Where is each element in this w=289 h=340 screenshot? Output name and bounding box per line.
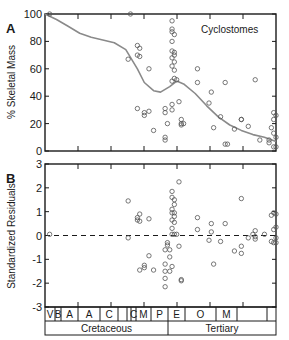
panel-b-points bbox=[47, 180, 278, 289]
data-point bbox=[195, 67, 199, 71]
data-point bbox=[170, 189, 174, 193]
stage-label: A bbox=[66, 309, 73, 320]
data-point bbox=[170, 226, 174, 230]
timescale-stages: VBAACCMPEOM bbox=[47, 307, 267, 321]
data-point bbox=[126, 57, 130, 61]
data-point bbox=[165, 121, 169, 125]
y-tick-label: -3 bbox=[32, 301, 42, 313]
data-point bbox=[195, 80, 199, 84]
data-point bbox=[209, 90, 213, 94]
data-point bbox=[177, 244, 181, 248]
data-point bbox=[239, 196, 243, 200]
data-point bbox=[218, 239, 222, 243]
data-point bbox=[267, 141, 271, 145]
data-point bbox=[172, 53, 176, 57]
stage-label: O bbox=[197, 309, 205, 320]
data-point bbox=[246, 124, 250, 128]
y-tick-label: 60 bbox=[30, 63, 42, 75]
data-point bbox=[239, 251, 243, 255]
data-point bbox=[135, 106, 139, 110]
stage-label: V bbox=[47, 309, 54, 320]
data-point bbox=[211, 126, 215, 130]
y-tick-label: 2 bbox=[36, 182, 42, 194]
y-tick-label: 0 bbox=[36, 145, 42, 157]
data-point bbox=[239, 244, 243, 248]
data-point bbox=[170, 64, 174, 68]
y-tick-label: 40 bbox=[30, 90, 42, 102]
data-point bbox=[170, 264, 174, 268]
data-point bbox=[126, 236, 130, 240]
panel-b-frame bbox=[45, 164, 276, 307]
data-point bbox=[163, 276, 167, 280]
timescale-periods: CretaceousTertiary bbox=[81, 321, 238, 335]
data-point bbox=[138, 46, 142, 50]
data-point bbox=[207, 101, 211, 105]
data-point bbox=[195, 215, 199, 219]
figure: 020406080100 A Cyclostomes % Skeletal Ma… bbox=[0, 0, 289, 340]
data-point bbox=[168, 269, 172, 273]
stage-label: C bbox=[105, 309, 112, 320]
data-point bbox=[138, 212, 142, 216]
data-point bbox=[163, 262, 167, 266]
data-point bbox=[232, 249, 236, 253]
panel-b-y-label: Standardized Residuals bbox=[6, 183, 17, 289]
data-point bbox=[211, 262, 215, 266]
y-tick-label: 3 bbox=[36, 158, 42, 170]
stage-label: P bbox=[156, 309, 163, 320]
panel-a: 020406080100 A Cyclostomes % Skeletal Ma… bbox=[6, 8, 278, 157]
panel-b: -3-2-10123 B Standardized Residuals bbox=[6, 158, 278, 313]
data-point bbox=[126, 199, 130, 203]
data-point bbox=[246, 236, 250, 240]
data-point bbox=[170, 30, 174, 34]
panel-a-y-label: % Skeletal Mass bbox=[6, 45, 17, 119]
stage-label: M bbox=[222, 309, 230, 320]
y-tick-label: -2 bbox=[32, 277, 42, 289]
data-point bbox=[170, 56, 174, 60]
y-tick-label: -1 bbox=[32, 253, 42, 265]
data-point bbox=[271, 110, 275, 114]
data-point bbox=[163, 269, 167, 273]
panel-a-label: A bbox=[6, 21, 16, 36]
data-point bbox=[168, 248, 172, 252]
data-point bbox=[253, 229, 257, 233]
data-point bbox=[269, 126, 273, 130]
data-point bbox=[151, 128, 155, 132]
data-point bbox=[209, 221, 213, 225]
data-point bbox=[138, 268, 142, 272]
annotation-cyclostomes: Cyclostomes bbox=[201, 24, 258, 35]
data-point bbox=[271, 117, 275, 121]
data-point bbox=[147, 254, 151, 258]
data-point bbox=[209, 230, 213, 234]
stage-label: M bbox=[139, 309, 147, 320]
data-point bbox=[172, 68, 176, 72]
data-point bbox=[170, 39, 174, 43]
data-point bbox=[147, 217, 151, 221]
data-point bbox=[253, 78, 257, 82]
data-point bbox=[147, 67, 151, 71]
y-tick-label: 80 bbox=[30, 35, 42, 47]
data-point bbox=[170, 19, 174, 23]
data-point bbox=[142, 110, 146, 114]
data-point bbox=[207, 238, 211, 242]
data-point bbox=[163, 138, 167, 142]
data-point bbox=[172, 202, 176, 206]
geologic-timescale: VBAACCMPEOM CretaceousTertiary bbox=[45, 307, 276, 335]
data-point bbox=[223, 221, 227, 225]
data-point bbox=[172, 32, 176, 36]
y-tick-label: 0 bbox=[36, 230, 42, 242]
data-point bbox=[135, 43, 139, 47]
y-tick-label: 1 bbox=[36, 206, 42, 218]
data-point bbox=[172, 60, 176, 64]
stage-label: A bbox=[86, 309, 93, 320]
data-point bbox=[170, 108, 174, 112]
period-label: Cretaceous bbox=[81, 323, 132, 334]
y-tick-label: 100 bbox=[24, 8, 42, 20]
data-point bbox=[170, 79, 174, 83]
data-point bbox=[168, 255, 172, 259]
data-point bbox=[195, 227, 199, 231]
data-point bbox=[258, 138, 262, 142]
data-point bbox=[163, 285, 167, 289]
data-point bbox=[177, 180, 181, 184]
data-point bbox=[147, 109, 151, 113]
period-label: Tertiary bbox=[206, 323, 239, 334]
